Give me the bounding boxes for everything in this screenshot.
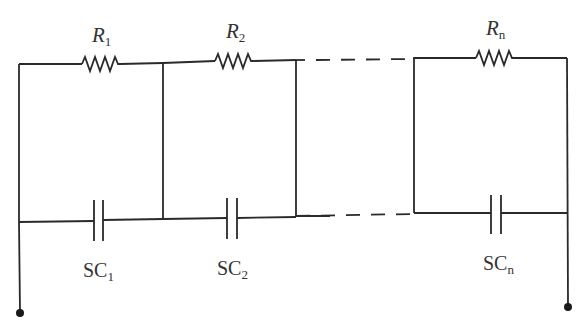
cell-1 — [19, 57, 163, 241]
capacitor-sc1 — [94, 200, 103, 241]
resistor-r1 — [82, 57, 120, 71]
label-r2: R2 — [225, 19, 245, 45]
capacitor-sc2 — [227, 198, 237, 239]
continuation-top — [316, 59, 412, 60]
resistor-rn — [476, 51, 514, 65]
label-scn: SCn — [483, 252, 514, 277]
resistor-r2 — [215, 54, 253, 68]
cell-2 — [163, 54, 296, 239]
circuit-diagram: R1 R2 Rn SC1 SC2 SCn — [0, 0, 582, 325]
label-r1: R1 — [91, 23, 111, 49]
capacitor-scn — [491, 195, 501, 234]
label-sc1: SC1 — [83, 259, 114, 284]
left-terminal — [16, 309, 24, 317]
label-rn: Rn — [485, 16, 506, 42]
right-terminal — [564, 303, 572, 311]
label-sc2: SC2 — [217, 257, 248, 282]
